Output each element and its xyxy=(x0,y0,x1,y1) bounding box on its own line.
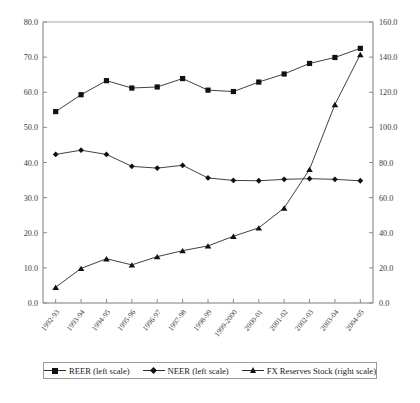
x-axis-tick-label: 1998-99 xyxy=(191,307,213,332)
data-point-marker xyxy=(53,152,59,158)
data-point-marker xyxy=(205,88,210,93)
data-point-marker xyxy=(307,176,313,182)
data-point-marker xyxy=(231,89,236,94)
data-point-marker xyxy=(281,176,287,182)
x-axis-tick-label: 1992-93 xyxy=(39,307,61,332)
chart-legend: REER (left scale) NEER (left scale) FX R… xyxy=(43,362,377,379)
series-diamond xyxy=(53,147,363,183)
data-point-marker xyxy=(104,78,109,83)
x-axis-tick-label: 2002-03 xyxy=(293,307,315,332)
y-axis-left-tick-label: 70.0 xyxy=(24,53,38,62)
plot-area: 0.010.020.030.040.050.060.070.080.00.020… xyxy=(0,0,420,360)
data-point-marker xyxy=(129,85,134,90)
series-triangle xyxy=(52,52,363,290)
x-axis-tick-label: 1995-96 xyxy=(115,307,137,332)
x-axis-tick-label: 1994-95 xyxy=(90,307,112,332)
x-axis-tick-label: 1997-98 xyxy=(166,307,188,332)
y-axis-left-tick-label: 80.0 xyxy=(24,18,38,27)
chart-container: 0.010.020.030.040.050.060.070.080.00.020… xyxy=(0,0,420,403)
data-point-marker xyxy=(53,109,58,114)
y-axis-left-tick-label: 60.0 xyxy=(24,88,38,97)
data-point-marker xyxy=(104,152,110,158)
y-axis-left-tick-label: 20.0 xyxy=(24,229,38,238)
x-axis-tick-label: 2004-05 xyxy=(344,307,366,332)
y-axis-right-tick-label: 120.0 xyxy=(379,88,397,97)
data-point-marker xyxy=(357,52,364,57)
x-axis-tick-label: 1999-2000 xyxy=(212,307,239,338)
y-axis-right-tick-label: 100.0 xyxy=(379,123,397,132)
data-point-marker xyxy=(256,178,262,184)
data-point-marker xyxy=(180,162,186,168)
data-point-marker xyxy=(282,71,287,76)
triangle-marker-icon xyxy=(242,366,264,375)
data-point-marker xyxy=(332,102,339,107)
data-point-marker xyxy=(154,254,161,259)
x-axis-tick-label: 1996-97 xyxy=(141,307,163,332)
y-axis-left-tick-label: 40.0 xyxy=(24,159,38,168)
data-point-marker xyxy=(256,79,261,84)
y-axis-right-tick-label: 60.0 xyxy=(379,194,393,203)
data-point-marker xyxy=(281,205,288,210)
legend-item-fx-reserves: FX Reserves Stock (right scale) xyxy=(242,366,376,376)
data-point-marker xyxy=(129,262,136,267)
data-point-marker xyxy=(306,167,313,172)
legend-item-reer: REER (left scale) xyxy=(44,366,130,376)
y-axis-left-tick-label: 10.0 xyxy=(24,264,38,273)
x-axis-tick-label: 1993-94 xyxy=(64,307,86,332)
x-axis-tick-label: 2000-01 xyxy=(242,307,264,332)
data-point-marker xyxy=(78,147,84,153)
diamond-marker-icon xyxy=(143,366,165,375)
x-axis-tick-label: 2001-02 xyxy=(267,307,289,332)
data-point-marker xyxy=(205,175,211,181)
legend-label-reer: REER (left scale) xyxy=(69,366,130,376)
legend-label-neer: NEER (left scale) xyxy=(168,366,229,376)
data-point-marker xyxy=(154,165,160,171)
y-axis-right-tick-label: 0.0 xyxy=(379,299,389,308)
y-axis-right-tick-label: 160.0 xyxy=(379,18,397,27)
data-point-marker xyxy=(155,84,160,89)
data-point-marker xyxy=(357,178,363,184)
legend-label-fx-reserves: FX Reserves Stock (right scale) xyxy=(267,366,376,376)
legend-item-neer: NEER (left scale) xyxy=(143,366,229,376)
x-axis-tick-label: 2003-04 xyxy=(318,307,340,332)
data-point-marker xyxy=(78,92,83,97)
series-square xyxy=(53,46,363,114)
data-point-marker xyxy=(358,46,363,51)
data-point-marker xyxy=(180,76,185,81)
data-point-marker xyxy=(307,61,312,66)
square-marker-icon xyxy=(44,366,66,375)
data-point-marker xyxy=(230,178,236,184)
y-axis-right-tick-label: 80.0 xyxy=(379,159,393,168)
data-point-marker xyxy=(332,55,337,60)
y-axis-right-tick-label: 140.0 xyxy=(379,53,397,62)
y-axis-right-tick-label: 20.0 xyxy=(379,264,393,273)
data-point-marker xyxy=(78,266,85,271)
y-axis-left-tick-label: 30.0 xyxy=(24,194,38,203)
y-axis-left-tick-label: 0.0 xyxy=(28,299,38,308)
data-point-marker xyxy=(103,256,110,261)
data-point-marker xyxy=(230,234,237,239)
chart-svg: 0.010.020.030.040.050.060.070.080.00.020… xyxy=(0,0,420,360)
data-point-marker xyxy=(332,176,338,182)
y-axis-left-tick-label: 50.0 xyxy=(24,123,38,132)
y-axis-right-tick-label: 40.0 xyxy=(379,229,393,238)
data-point-marker xyxy=(129,163,135,169)
